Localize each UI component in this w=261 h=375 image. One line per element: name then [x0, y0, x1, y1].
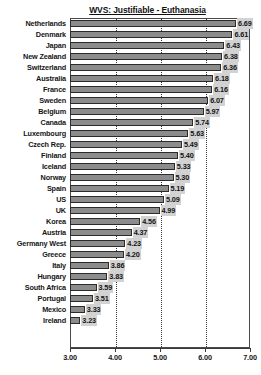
- bar-row: Ireland3.23: [0, 315, 261, 326]
- bar-wrapper: 4.37: [70, 227, 250, 238]
- bar-row: US5.09: [0, 194, 261, 205]
- bar-row: Italy3.86: [0, 260, 261, 271]
- bar-wrapper: 5.74: [70, 117, 250, 128]
- bar: [70, 229, 132, 236]
- bar: [70, 196, 164, 203]
- category-label: Japan: [0, 40, 66, 51]
- category-label: South Africa: [0, 282, 66, 293]
- bar-wrapper: 3.23: [70, 315, 250, 326]
- category-label: France: [0, 84, 66, 95]
- bar: [70, 86, 212, 93]
- bar: [70, 174, 174, 181]
- chart-container: WVS: Justifiable - Euthanasia Netherland…: [0, 0, 261, 375]
- bar: [70, 141, 182, 148]
- bar: [70, 53, 222, 60]
- bar: [70, 240, 125, 247]
- bar-row: Korea4.56: [0, 216, 261, 227]
- bar-value-label: 4.23: [126, 238, 142, 249]
- bar-wrapper: 6.38: [70, 51, 250, 62]
- category-label: Austria: [0, 227, 66, 238]
- bar-value-label: 5.49: [183, 139, 199, 150]
- bar-value-label: 5.30: [175, 172, 191, 183]
- bar-wrapper: 5.97: [70, 106, 250, 117]
- bar-value-label: 5.63: [189, 128, 205, 139]
- bar-value-label: 3.51: [94, 293, 110, 304]
- bar-wrapper: 6.69: [70, 18, 250, 29]
- bar-wrapper: 5.63: [70, 128, 250, 139]
- bar-value-label: 6.18: [214, 73, 230, 84]
- bar: [70, 185, 169, 192]
- bar-row: Belgium5.97: [0, 106, 261, 117]
- bar-wrapper: 6.43: [70, 40, 250, 51]
- bar-row: New Zealand6.38: [0, 51, 261, 62]
- bar-value-label: 3.86: [110, 260, 126, 271]
- bar-value-label: 6.07: [209, 95, 225, 106]
- bar-value-label: 5.97: [205, 106, 221, 117]
- x-tick-label: 3.00: [63, 353, 77, 362]
- bar-value-label: 3.83: [108, 271, 124, 282]
- bar-row: Spain5.19: [0, 183, 261, 194]
- bar-row: Luxembourg5.63: [0, 128, 261, 139]
- category-label: Norway: [0, 172, 66, 183]
- bar-wrapper: 6.61: [70, 29, 250, 40]
- bar-row: Switzerland6.36: [0, 62, 261, 73]
- bar-wrapper: 3.51: [70, 293, 250, 304]
- bar: [70, 251, 124, 258]
- bar-value-label: 5.09: [165, 194, 181, 205]
- bar-row: Greece4.20: [0, 249, 261, 260]
- bar-wrapper: 3.86: [70, 260, 250, 271]
- bar-value-label: 5.19: [170, 183, 186, 194]
- x-tick-label: 4.00: [108, 353, 122, 362]
- bar: [70, 218, 140, 225]
- x-tick: [115, 348, 116, 352]
- bar-row: Finland5.40: [0, 150, 261, 161]
- x-tick: [160, 348, 161, 352]
- bar-value-label: 5.74: [194, 117, 210, 128]
- bar: [70, 317, 80, 324]
- bar-value-label: 3.33: [86, 304, 102, 315]
- bar: [70, 64, 221, 71]
- bar-wrapper: 5.49: [70, 139, 250, 150]
- bar-wrapper: 3.83: [70, 271, 250, 282]
- bar-wrapper: 4.23: [70, 238, 250, 249]
- bar-row: Hungary3.83: [0, 271, 261, 282]
- category-label: Sweden: [0, 95, 66, 106]
- bar: [70, 262, 109, 269]
- bar-row: Sweden6.07: [0, 95, 261, 106]
- bar-row: France6.16: [0, 84, 261, 95]
- bar-wrapper: 5.19: [70, 183, 250, 194]
- bar-value-label: 5.40: [179, 150, 195, 161]
- bar-rows: Netherlands6.69Denmark6.61Japan6.43New Z…: [0, 18, 261, 348]
- bar-row: Austria4.37: [0, 227, 261, 238]
- bar-wrapper: 4.56: [70, 216, 250, 227]
- bar-value-label: 6.61: [233, 29, 249, 40]
- bar-value-label: 4.99: [161, 205, 177, 216]
- category-label: Czech Rep.: [0, 139, 66, 150]
- category-label: Mexico: [0, 304, 66, 315]
- bar-wrapper: 5.40: [70, 150, 250, 161]
- bar-value-label: 6.69: [237, 18, 253, 29]
- bar-wrapper: 6.36: [70, 62, 250, 73]
- bar: [70, 20, 236, 27]
- bar-wrapper: 3.33: [70, 304, 250, 315]
- bar-wrapper: 5.09: [70, 194, 250, 205]
- bar: [70, 284, 97, 291]
- bar-row: Australia6.18: [0, 73, 261, 84]
- bar: [70, 306, 85, 313]
- category-label: Switzerland: [0, 62, 66, 73]
- category-label: Italy: [0, 260, 66, 271]
- bar-row: UK4.99: [0, 205, 261, 216]
- x-tick-label: 5.00: [153, 353, 167, 362]
- bar-value-label: 4.20: [125, 249, 141, 260]
- bar-row: Czech Rep.5.49: [0, 139, 261, 150]
- category-label: Canada: [0, 117, 66, 128]
- bar-row: Denmark6.61: [0, 29, 261, 40]
- category-label: Germany West: [0, 238, 66, 249]
- category-label: Iceland: [0, 161, 66, 172]
- bar: [70, 207, 160, 214]
- bar-wrapper: 5.30: [70, 172, 250, 183]
- bar-wrapper: 3.59: [70, 282, 250, 293]
- category-label: Korea: [0, 216, 66, 227]
- bar: [70, 31, 232, 38]
- bar: [70, 97, 208, 104]
